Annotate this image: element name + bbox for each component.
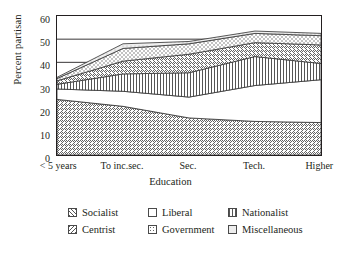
y-tick-10: 10 — [24, 131, 50, 141]
x-tick-label-0: < 5 years — [40, 160, 77, 171]
x-tick-label-3: Tech. — [243, 160, 265, 171]
x-tick-label-1: To inc.sec. — [101, 160, 144, 171]
legend-label: Miscellaneous — [242, 224, 303, 235]
faint-light-swatch — [228, 225, 237, 234]
legend-label: Liberal — [162, 207, 192, 218]
x-axis-tick-labels: < 5 yearsTo inc.sec.Sec.Tech.Higher — [0, 160, 341, 176]
legend-row-2: CentristGovernmentMiscellaneous — [0, 222, 341, 239]
legend-item-socialist[interactable]: Socialist — [68, 207, 118, 218]
chart-area: Percent partisan 6050403020100 — [0, 0, 341, 196]
vertical-lines-swatch — [228, 208, 237, 217]
y-tick-60: 60 — [24, 15, 50, 25]
legend-item-centrist[interactable]: Centrist — [68, 224, 115, 235]
y-axis-title: Percent partisan — [12, 0, 23, 105]
x-tick-label-4: Higher — [305, 160, 333, 171]
legend-label: Centrist — [82, 224, 115, 235]
legend-item-liberal[interactable]: Liberal — [148, 207, 192, 218]
y-tick-50: 50 — [24, 38, 50, 48]
legend-item-miscellaneous[interactable]: Miscellaneous — [228, 224, 303, 235]
legend-label: Socialist — [82, 207, 118, 218]
white-swatch — [148, 208, 157, 217]
legend-item-nationalist[interactable]: Nationalist — [228, 207, 288, 218]
stacked-area-plot — [57, 16, 321, 155]
x-tick-label-2: Sec. — [180, 160, 197, 171]
y-tick-40: 40 — [24, 61, 50, 71]
legend-item-government[interactable]: Government — [148, 224, 215, 235]
dotted-crosshatch-swatch — [148, 225, 157, 234]
diagonal-up-hatch-swatch — [68, 208, 77, 217]
chart-legend: SocialistLiberalNationalist CentristGove… — [0, 205, 341, 253]
x-axis-title: Education — [0, 176, 341, 187]
y-tick-20: 20 — [24, 108, 50, 118]
y-axis-tick-labels: 6050403020100 — [24, 9, 50, 161]
legend-row-1: SocialistLiberalNationalist — [0, 205, 341, 222]
legend-label: Nationalist — [242, 207, 288, 218]
legend-label: Government — [162, 224, 215, 235]
diagonal-down-hatch-swatch — [68, 225, 77, 234]
y-tick-30: 30 — [24, 85, 50, 95]
chart-figure: Percent partisan 6050403020100 — [0, 0, 341, 257]
area-bands — [57, 31, 321, 155]
plot-region — [56, 15, 322, 156]
